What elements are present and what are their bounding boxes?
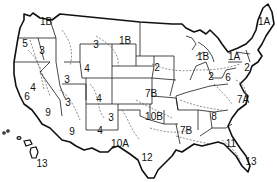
zone-label-8-georgia: 8 [211,111,217,122]
zone-label-6-california: 6 [24,91,30,102]
zone-label-9-socal: 9 [45,107,51,118]
us-zone-map: 1B1B1B1A1A2223333344445667A7B7B89910A10B… [0,0,277,182]
zone-label-13-florida: 13 [245,156,257,167]
zone-label-12-texas: 12 [141,152,153,163]
zone-label-11-florida: 11 [226,138,237,149]
hawaii-islands [3,130,38,158]
zone-label-3-newmexico: 3 [108,112,114,123]
zone-label-2-newjersey: 2 [244,62,250,73]
zone-label-7B-south: 7B [180,125,193,136]
zone-label-4-california: 4 [30,82,36,93]
zone-label-3-nevada: 3 [64,74,70,85]
zone-label-5-coast: 5 [22,38,28,49]
zone-label-1B-northwest: 1B [40,16,53,27]
zone-label-7B-kansas: 7B [145,88,158,99]
zone-label-6-virginia: 6 [225,72,231,83]
zone-label-4-wyoming: 4 [84,63,90,74]
zone-label-10B-oklahoma: 10B [145,111,163,122]
zone-label-7A-carolina: 7A [237,94,250,105]
zone-label-2-ohio: 2 [208,71,214,82]
zone-label-10A-texas: 10A [111,138,129,149]
zone-label-3-idaho: 3 [93,39,99,50]
zone-label-9-arizona: 9 [69,126,75,137]
zone-label-1A-maine: 1A [258,16,271,27]
zone-label-3-oregon: 3 [39,45,45,56]
zone-label-3-utah: 3 [65,97,71,108]
zone-label-1A-newyork: 1A [228,51,241,62]
zone-label-4-colorado: 4 [96,93,102,104]
zone-label-2-plains: 2 [154,62,160,73]
zone-label-4-newmexico: 4 [97,125,103,136]
zone-label-1B-north: 1B [119,35,132,46]
zone-label-13-hawaii: 13 [36,158,48,169]
zone-label-1B-michigan: 1B [197,51,210,62]
